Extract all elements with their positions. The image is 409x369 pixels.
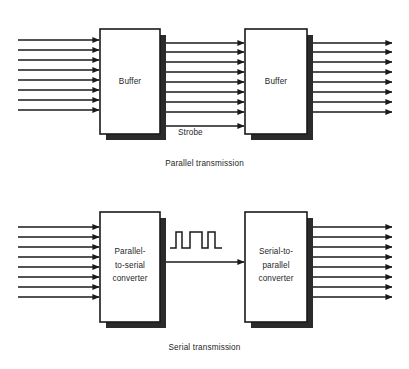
- transmission-diagram: Buffer Buffer Strobe Parallel transmissi…: [0, 0, 409, 369]
- box-label-line: Parallel-: [100, 245, 160, 259]
- input-bus-parallel: [18, 40, 99, 110]
- box-label-line: to-serial: [100, 259, 160, 273]
- caption-serial-transmission: Serial transmission: [0, 343, 409, 352]
- box-label-buffer-right: Buffer: [245, 75, 307, 89]
- box-label-line: Serial-to-: [245, 245, 307, 259]
- box-label-line: parallel: [245, 259, 307, 273]
- strobe-label: Strobe: [178, 128, 203, 137]
- box-label-serial-to-parallel-converter: Serial-to- parallel converter: [245, 245, 307, 286]
- square-wave-pulse-train: [170, 232, 222, 248]
- input-bus-serial: [18, 227, 99, 297]
- diagram-canvas: [0, 0, 409, 369]
- box-label-buffer-left: Buffer: [100, 75, 160, 89]
- caption-parallel-transmission: Parallel transmission: [0, 159, 409, 168]
- box-label-parallel-to-serial-converter: Parallel- to-serial converter: [100, 245, 160, 286]
- box-label-line: converter: [245, 272, 307, 286]
- middle-bus-parallel: [166, 43, 244, 112]
- output-bus-serial: [313, 227, 392, 297]
- box-label-line: converter: [100, 272, 160, 286]
- output-bus-parallel: [313, 43, 392, 112]
